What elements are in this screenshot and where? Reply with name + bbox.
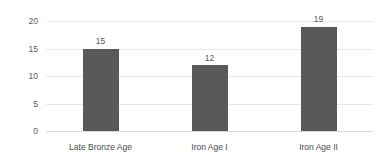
bar-chart: 20 15 10 5 0 15 12 19 Late	[0, 0, 383, 165]
y-tick-label-10: 10	[12, 71, 38, 81]
x-tick-label-iron-age-i: Iron Age I	[191, 141, 227, 153]
bar-value-iron-age-i: 12	[205, 53, 214, 63]
bars-layer: 15 12 19	[46, 21, 373, 131]
bar-late-bronze-age[interactable]	[83, 49, 119, 132]
y-tick-label-15: 15	[12, 44, 38, 54]
y-tick-label-0: 0	[12, 126, 38, 136]
bar-value-iron-age-ii: 19	[314, 14, 323, 24]
x-tick-label-late-bronze-age: Late Bronze Age	[69, 141, 132, 153]
bar-group-late-bronze-age: 15	[46, 21, 155, 131]
plot-area: 15 12 19	[46, 21, 373, 131]
gridline-baseline-0	[46, 131, 373, 132]
bar-group-iron-age-i: 12	[155, 21, 264, 131]
bar-iron-age-ii[interactable]	[301, 27, 337, 132]
bar-value-late-bronze-age: 15	[96, 36, 105, 46]
bar-group-iron-age-ii: 19	[264, 21, 373, 131]
x-tick-label-iron-age-ii: Iron Age II	[299, 141, 338, 153]
y-axis: 20 15 10 5 0	[8, 21, 38, 131]
x-axis: Late Bronze Age Iron Age I Iron Age II	[46, 141, 373, 157]
y-tick-label-20: 20	[12, 16, 38, 26]
y-tick-label-5: 5	[12, 99, 38, 109]
bar-iron-age-i[interactable]	[192, 65, 228, 131]
